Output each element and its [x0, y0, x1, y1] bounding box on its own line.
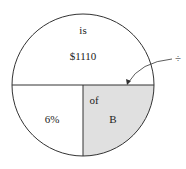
- top-value: $1110: [70, 50, 97, 62]
- bottom-right-value: B: [109, 113, 116, 125]
- circle-diagram: [0, 0, 186, 169]
- bottom-right-word: of: [89, 94, 98, 106]
- divide-symbol: ÷: [175, 52, 181, 64]
- top-word: is: [79, 24, 86, 36]
- bottom-left-value: 6%: [45, 113, 60, 125]
